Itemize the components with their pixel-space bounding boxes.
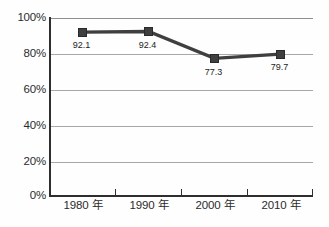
data-point-marker [78,28,87,37]
data-point-marker [276,50,285,59]
data-label-2010: 79.7 [262,63,297,72]
series-polyline [83,32,280,59]
line-chart: 100% 80% 60% 40% 20% 0% 92.1 92.4 77.3 7… [0,0,329,227]
data-label-1980: 92.1 [64,41,99,50]
x-tick-label-1980: 1980 年 [51,199,115,213]
data-label-1990: 92.4 [130,41,165,50]
x-tick-label-1990: 1990 年 [117,199,181,213]
data-point-marker [144,27,153,36]
data-point-marker [210,54,219,63]
series-line-layer [0,0,329,227]
x-tick-label-2000: 2000 年 [183,199,247,213]
data-label-2000: 77.3 [196,68,231,77]
x-tick-label-2010: 2010 年 [249,199,313,213]
